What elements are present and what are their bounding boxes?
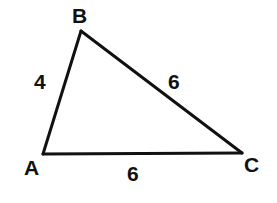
vertex-label-a: A bbox=[24, 157, 39, 178]
triangle-diagram: B A C 4 6 6 bbox=[0, 0, 277, 203]
vertex-label-b: B bbox=[72, 5, 87, 26]
side-bc bbox=[81, 31, 242, 153]
side-ac bbox=[43, 153, 242, 154]
vertex-label-c: C bbox=[244, 154, 259, 175]
side-length-ac: 6 bbox=[127, 163, 139, 184]
side-length-bc: 6 bbox=[168, 71, 180, 92]
side-ab bbox=[43, 31, 81, 154]
side-length-ab: 4 bbox=[34, 71, 46, 92]
